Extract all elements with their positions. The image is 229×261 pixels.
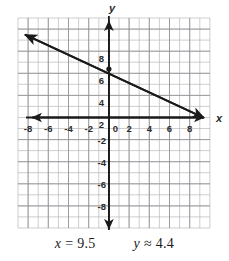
x-answer-value: 9.5 <box>77 236 95 251</box>
y-tick-label: -8 <box>98 201 106 212</box>
x-tick-label: -2 <box>84 123 92 134</box>
y-answer-value: 4.4 <box>156 236 174 251</box>
x-tick-label: -8 <box>24 123 32 134</box>
y-tick-label: 4 <box>99 97 105 108</box>
y-axis-label: y <box>108 2 116 14</box>
x-answer-relation: = <box>65 236 73 251</box>
y-tick-label: 6 <box>99 75 104 86</box>
x-tick-label: 8 <box>187 123 192 134</box>
y-answer-relation: ≈ <box>144 236 152 251</box>
y-tick-label: -6 <box>98 179 106 190</box>
answers-row: x = 9.5 y ≈ 4.4 <box>0 236 229 261</box>
x-answer-variable: x <box>55 236 62 251</box>
x-tick-label: -4 <box>64 123 73 134</box>
x-answer: x = 9.5 <box>55 236 96 252</box>
y-tick-label: 2 <box>99 119 104 130</box>
x-tick-label: 4 <box>147 123 153 134</box>
x-tick-label: 6 <box>167 123 172 134</box>
x-axis-label: x <box>215 112 223 124</box>
coordinate-plane-graph: -8 -6 -4 -2 0 2 4 6 8 8 6 4 2 -2 -4 -6 -… <box>0 0 229 261</box>
x-tick-label: -6 <box>44 123 52 134</box>
y-tick-label: -2 <box>98 135 106 146</box>
y-answer-variable: y <box>134 236 141 251</box>
y-answer: y ≈ 4.4 <box>134 236 175 252</box>
x-tick-label-origin: 0 <box>113 123 118 134</box>
y-intercept-point <box>106 66 111 71</box>
y-tick-label: 8 <box>99 53 104 64</box>
y-tick-label: -4 <box>98 157 107 168</box>
x-tick-label: 2 <box>126 123 131 134</box>
